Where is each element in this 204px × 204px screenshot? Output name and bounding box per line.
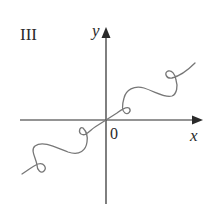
origin-label: 0 [110, 126, 118, 142]
panel-label: III [20, 26, 37, 43]
diagram-canvas: III y x 0 [0, 0, 204, 204]
x-axis-arrow-icon [192, 116, 203, 125]
y-axis-arrow-icon [102, 27, 111, 38]
y-axis-label: y [92, 22, 100, 39]
x-axis-label: x [190, 127, 198, 144]
looping-curve [22, 63, 195, 174]
